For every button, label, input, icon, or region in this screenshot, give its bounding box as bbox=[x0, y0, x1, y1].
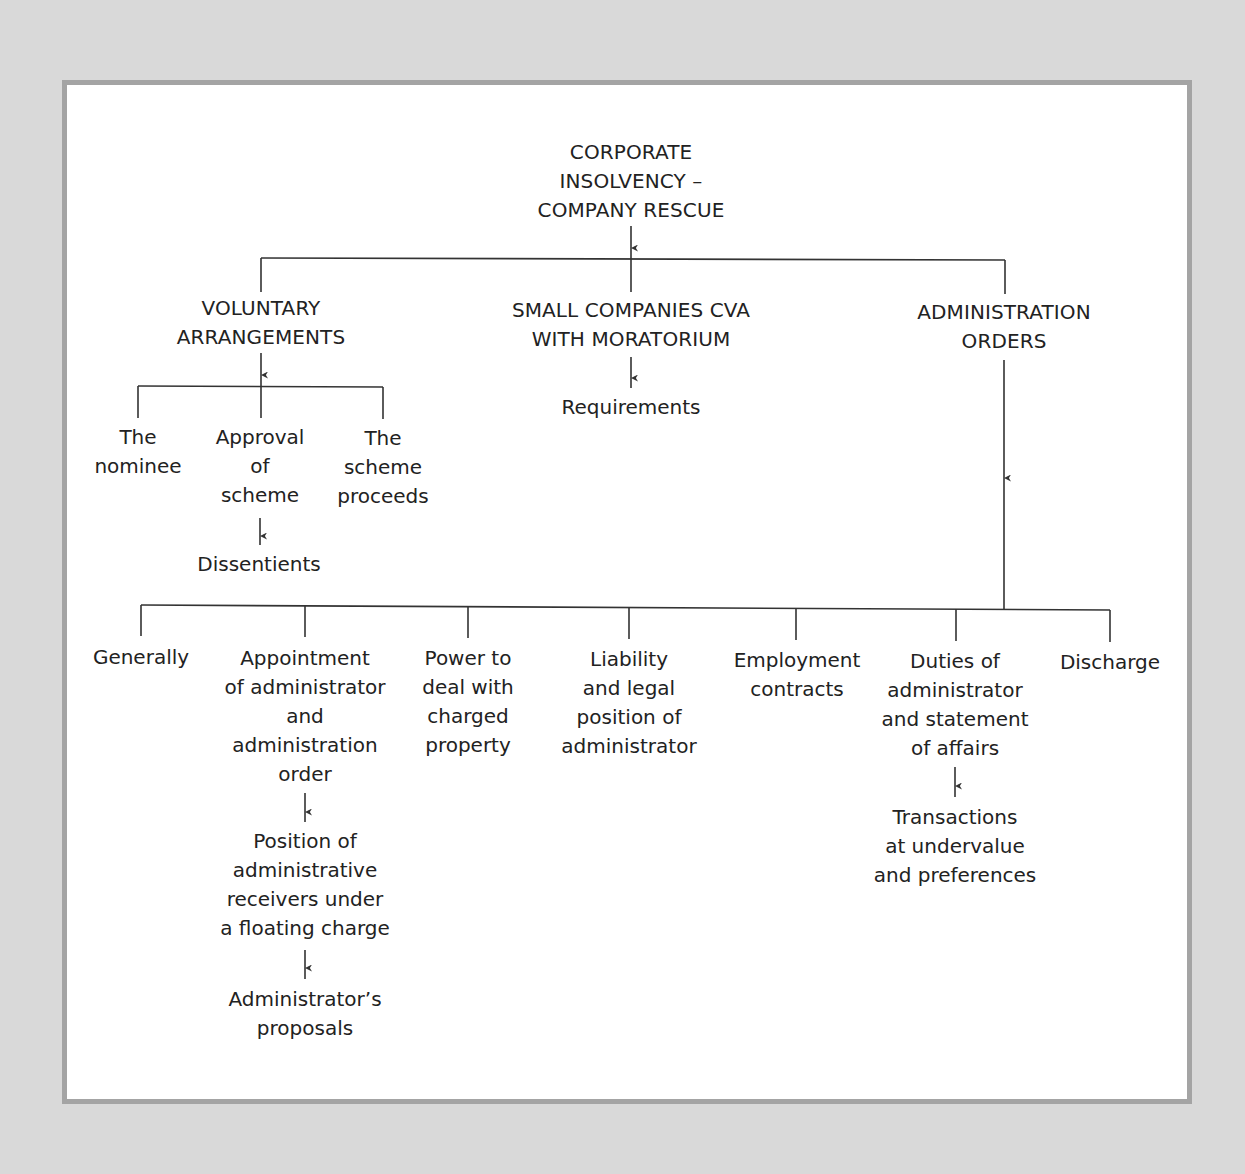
node-liability-legal-position: Liability and legal position of administ… bbox=[561, 645, 696, 761]
node-discharge: Discharge bbox=[1060, 648, 1160, 677]
node-voluntary-arrangements: VOLUNTARY ARRANGEMENTS bbox=[177, 294, 345, 352]
node-transactions-at-undervalue: Transactions at undervalue and preferenc… bbox=[874, 803, 1037, 890]
node-power-to-deal: Power to deal with charged property bbox=[422, 644, 514, 760]
node-appointment-of-administrator: Appointment of administrator and adminis… bbox=[225, 644, 386, 789]
node-administration-orders: ADMINISTRATION ORDERS bbox=[917, 298, 1090, 356]
node-duties-of-administrator: Duties of administrator and statement of… bbox=[882, 647, 1029, 763]
node-the-nominee: The nominee bbox=[94, 423, 181, 481]
node-approval-of-scheme: Approval of scheme bbox=[216, 423, 305, 510]
node-position-of-receivers: Position of administrative receivers und… bbox=[220, 827, 390, 943]
node-scheme-proceeds: The scheme proceeds bbox=[337, 424, 428, 511]
root-node: CORPORATE INSOLVENCY – COMPANY RESCUE bbox=[538, 138, 725, 225]
node-small-companies-cva: SMALL COMPANIES CVA WITH MORATORIUM bbox=[512, 296, 750, 354]
node-dissentients: Dissentients bbox=[197, 550, 320, 579]
node-administrators-proposals: Administrator’s proposals bbox=[228, 985, 381, 1043]
node-employment-contracts: Employment contracts bbox=[734, 646, 861, 704]
node-generally: Generally bbox=[93, 643, 189, 672]
node-requirements: Requirements bbox=[561, 393, 700, 422]
